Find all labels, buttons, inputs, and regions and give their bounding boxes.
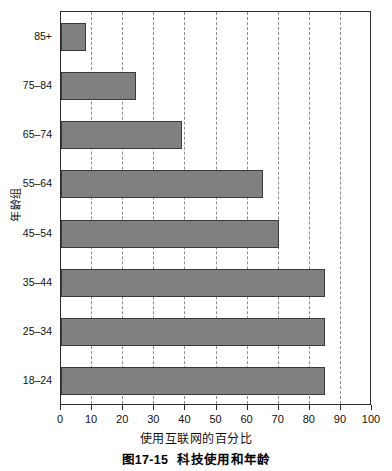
x-axis-title: 使用互联网的百分比 xyxy=(0,432,392,447)
x-axis-tick-labels: 0102030405060708090100 xyxy=(0,0,392,471)
figure-caption-number: 图17-15 xyxy=(122,453,169,467)
x-tick-mark-40 xyxy=(184,405,185,410)
figure-container: 年龄组 85+75–8465–7455–6445–5435–4425–3418–… xyxy=(0,0,392,471)
x-tick-mark-80 xyxy=(309,405,310,410)
x-tick-mark-0 xyxy=(60,405,61,410)
x-tick-mark-10 xyxy=(91,405,92,410)
x-tick-mark-90 xyxy=(340,405,341,410)
x-tick-mark-70 xyxy=(278,405,279,410)
x-tick-label-100: 100 xyxy=(351,413,391,426)
x-tick-mark-20 xyxy=(122,405,123,410)
figure-caption-text: 科技使用和年龄 xyxy=(177,453,270,467)
x-tick-mark-60 xyxy=(247,405,248,410)
figure-caption: 图17-15科技使用和年龄 xyxy=(0,452,392,468)
x-tick-mark-100 xyxy=(371,405,372,410)
x-tick-mark-30 xyxy=(153,405,154,410)
x-tick-mark-50 xyxy=(216,405,217,410)
